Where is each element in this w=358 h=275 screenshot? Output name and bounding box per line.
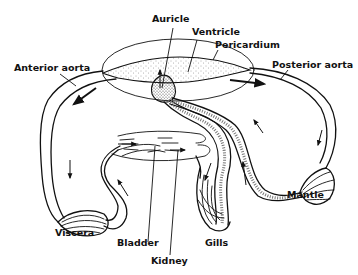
label-anterior-aorta: Anterior aorta xyxy=(14,63,90,73)
label-bladder: Bladder xyxy=(117,238,159,248)
label-pericardium: Pericardium xyxy=(215,40,280,50)
mantle-return-vessel xyxy=(172,98,302,196)
kidney-bladder xyxy=(112,131,210,160)
ventricle xyxy=(103,57,250,83)
label-viscera: Viscera xyxy=(55,228,94,238)
label-auricle: Auricle xyxy=(152,14,189,24)
gills-capillaries xyxy=(196,156,230,231)
label-posterior-aorta: Posterior aorta xyxy=(272,60,353,70)
efferent-branchial-vessel xyxy=(170,100,231,225)
label-kidney: Kidney xyxy=(151,256,188,266)
label-gills: Gills xyxy=(205,238,228,248)
circulatory-diagram: Auricle Ventricle Pericardium Anterior a… xyxy=(0,0,358,275)
label-ventricle: Ventricle xyxy=(192,27,240,37)
label-mantle: Mantle xyxy=(287,190,324,200)
diagram-drawing xyxy=(0,0,358,275)
